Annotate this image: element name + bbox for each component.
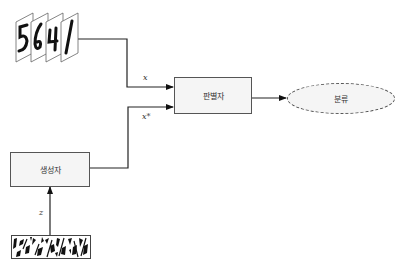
edge-label-x-star: x* — [142, 112, 151, 121]
real-images-stack — [0, 0, 90, 70]
arrow-real-to-discriminator — [78, 39, 173, 87]
classification-label: 분류 — [334, 93, 348, 104]
edge-label-z: z — [39, 208, 43, 217]
generator-label: 생성자 — [40, 164, 61, 175]
noise-image — [11, 235, 91, 259]
classification-ellipse: 분류 — [287, 83, 395, 114]
generator-box: 생성자 — [10, 152, 90, 187]
discriminator-box: 판별자 — [174, 77, 252, 114]
discriminator-label: 판별자 — [203, 90, 224, 101]
edge-label-x: x — [143, 73, 148, 82]
arrow-generator-to-discriminator — [90, 107, 173, 168]
